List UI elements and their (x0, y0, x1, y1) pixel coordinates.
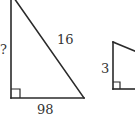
left-triangle-hypotenuse-label: 16 (57, 32, 74, 47)
triangles-diagram: ? 16 98 3 (0, 0, 135, 116)
right-triangle: 3 (101, 42, 135, 89)
right-triangle-right-angle-marker (113, 82, 120, 89)
left-triangle-base-label: 98 (37, 102, 54, 116)
left-triangle-hypotenuse (14, 0, 84, 98)
right-triangle-vertical-leg-label: 3 (101, 61, 109, 76)
left-triangle: ? 16 98 (0, 0, 84, 116)
right-triangle-hypotenuse (113, 42, 135, 52)
left-triangle-right-angle-marker (11, 89, 20, 98)
left-triangle-vertical-leg-label: ? (0, 42, 7, 57)
